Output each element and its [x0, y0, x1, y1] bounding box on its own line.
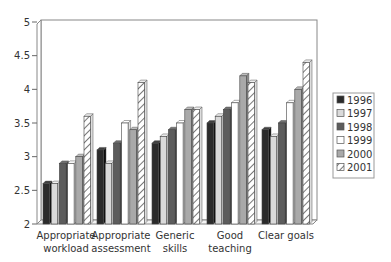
bar — [138, 80, 147, 224]
bar — [232, 100, 241, 224]
x-axis-labels: AppropriateworkloadAppropriateassessment… — [37, 230, 314, 254]
x-category-label: assessment — [91, 243, 150, 254]
y-tick-label: 3.5 — [14, 118, 30, 129]
bar — [105, 161, 114, 224]
bar — [59, 161, 68, 224]
bar — [287, 100, 296, 224]
x-category-label: workload — [43, 243, 89, 254]
y-tick-label: 3 — [24, 151, 30, 162]
y-axis: 22.533.544.55 — [14, 17, 37, 230]
y-tick-label: 4.5 — [14, 50, 30, 61]
bar — [193, 107, 202, 224]
legend-label: 1996 — [347, 95, 372, 106]
bar — [76, 154, 85, 224]
x-category-label: Clear goals — [258, 230, 314, 241]
bar — [177, 121, 186, 225]
legend-label: 2001 — [347, 162, 372, 173]
bar — [207, 121, 216, 225]
x-category-label: Good — [217, 230, 243, 241]
bar — [51, 181, 60, 224]
legend-label: 2000 — [347, 149, 372, 160]
bar — [160, 134, 169, 224]
x-category-label: skills — [163, 243, 188, 254]
legend-swatch — [337, 96, 344, 103]
bar — [122, 121, 131, 225]
bar — [185, 107, 194, 224]
legend-label: 1998 — [347, 122, 372, 133]
bar — [278, 121, 287, 225]
bar — [113, 141, 122, 224]
x-category-label: Generic — [156, 230, 195, 241]
bar-chart: 22.533.544.55 AppropriateworkloadAppropr… — [0, 0, 391, 262]
bar — [223, 107, 232, 224]
bar — [43, 181, 52, 224]
bar — [270, 134, 279, 224]
bar — [303, 60, 312, 224]
legend-swatch — [337, 164, 344, 171]
legend-swatch — [337, 137, 344, 144]
bar — [295, 87, 304, 224]
y-tick-label: 2.5 — [14, 185, 30, 196]
bar — [240, 73, 249, 224]
bar — [84, 114, 93, 224]
bar — [130, 127, 139, 224]
legend: 199619971998199920002001 — [333, 93, 374, 178]
bar — [215, 114, 224, 224]
bar — [262, 127, 271, 224]
bar — [168, 127, 177, 224]
x-category-label: Appropriate — [37, 230, 96, 241]
y-tick-label: 4 — [24, 84, 30, 95]
legend-label: 1997 — [347, 108, 372, 119]
y-tick-label: 2 — [24, 219, 30, 230]
legend-swatch — [337, 150, 344, 157]
x-category-label: teaching — [208, 243, 252, 254]
legend-swatch — [337, 123, 344, 130]
bar — [68, 161, 77, 224]
x-category-label: Appropriate — [92, 230, 151, 241]
bar — [97, 147, 106, 224]
legend-swatch — [337, 110, 344, 117]
bar — [248, 80, 257, 224]
legend-label: 1999 — [347, 135, 372, 146]
bar — [152, 141, 161, 224]
y-tick-label: 5 — [24, 17, 30, 28]
